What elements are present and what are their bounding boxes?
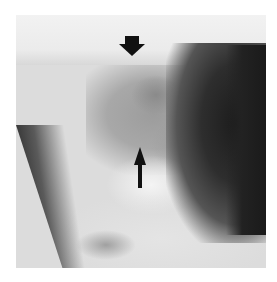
airway-shadow-edge [226,45,266,235]
arrow-up-stem [138,164,142,188]
arrow-up-icon [134,147,146,165]
arrowhead-down-icon [119,44,145,56]
